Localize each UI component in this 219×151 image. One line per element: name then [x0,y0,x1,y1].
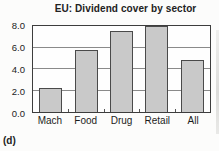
bar-all [181,60,204,112]
y-tick-label-4.0: 4.0 [12,64,25,74]
bar-mach [39,88,62,112]
x-category-label-all: All [188,115,199,126]
x-category-label-drug: Drug [111,115,133,126]
figure-label: (d) [3,135,16,146]
bar-drug [110,31,133,112]
x-axis-tick [68,109,69,112]
y-tick-label-0.0: 0.0 [12,108,25,118]
x-axis-tick [139,109,140,112]
y-tick-label-6.0: 6.0 [12,42,25,52]
x-axis-labels: MachFoodDrugRetailAll [32,115,211,128]
x-axis-tick [104,109,105,112]
y-tick-label-2.0: 2.0 [12,86,25,96]
y-axis-labels: 0.02.04.06.08.0 [0,25,28,113]
x-axis-tick [175,109,176,112]
chart-title: EU: Dividend cover by sector [32,3,219,14]
x-category-label-food: Food [74,115,97,126]
plot-inner [33,26,210,112]
y-tick-label-8.0: 8.0 [12,20,25,30]
x-category-label-retail: Retail [145,115,171,126]
x-category-label-mach: Mach [38,115,62,126]
plot-area [32,25,211,113]
bar-retail [145,26,168,112]
bar-food [75,50,98,112]
scan-edge-shadow [216,30,219,134]
